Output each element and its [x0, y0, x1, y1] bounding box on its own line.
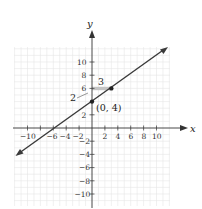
svg-text:10: 10 — [77, 58, 87, 67]
svg-text:6: 6 — [82, 84, 87, 93]
y-axis-arrow-icon — [89, 30, 95, 38]
svg-text:8: 8 — [82, 71, 87, 80]
svg-text:−6: −6 — [47, 132, 58, 141]
rise-pointer — [77, 93, 88, 98]
svg-text:−10: −10 — [20, 132, 36, 141]
coordinate-graph: x y −10 −6 −4 −2 2 4 6 8 10 10 8 6 2 −2 … — [0, 0, 202, 209]
intercept-label: (0, 4) — [96, 102, 122, 113]
rise-label: 2 — [70, 92, 76, 103]
svg-text:2: 2 — [82, 111, 87, 120]
run-label: 3 — [98, 76, 104, 87]
svg-text:−4: −4 — [79, 150, 90, 159]
svg-text:−10: −10 — [75, 190, 91, 199]
point-y-intercept — [90, 99, 94, 103]
point-3-6 — [109, 86, 113, 90]
svg-text:6: 6 — [129, 132, 134, 141]
svg-text:−4: −4 — [60, 132, 71, 141]
y-axis-label: y — [86, 18, 93, 29]
svg-text:2: 2 — [103, 132, 108, 141]
svg-text:−6: −6 — [79, 163, 90, 172]
x-axis-arrow-icon — [180, 125, 188, 131]
svg-text:4: 4 — [116, 132, 121, 141]
line-arrow-upper-icon — [160, 47, 168, 54]
svg-text:10: 10 — [152, 132, 162, 141]
x-axis — [13, 125, 188, 131]
svg-text:−8: −8 — [79, 177, 90, 186]
x-axis-label: x — [190, 123, 196, 134]
svg-text:−2: −2 — [79, 137, 90, 146]
svg-text:8: 8 — [142, 132, 147, 141]
